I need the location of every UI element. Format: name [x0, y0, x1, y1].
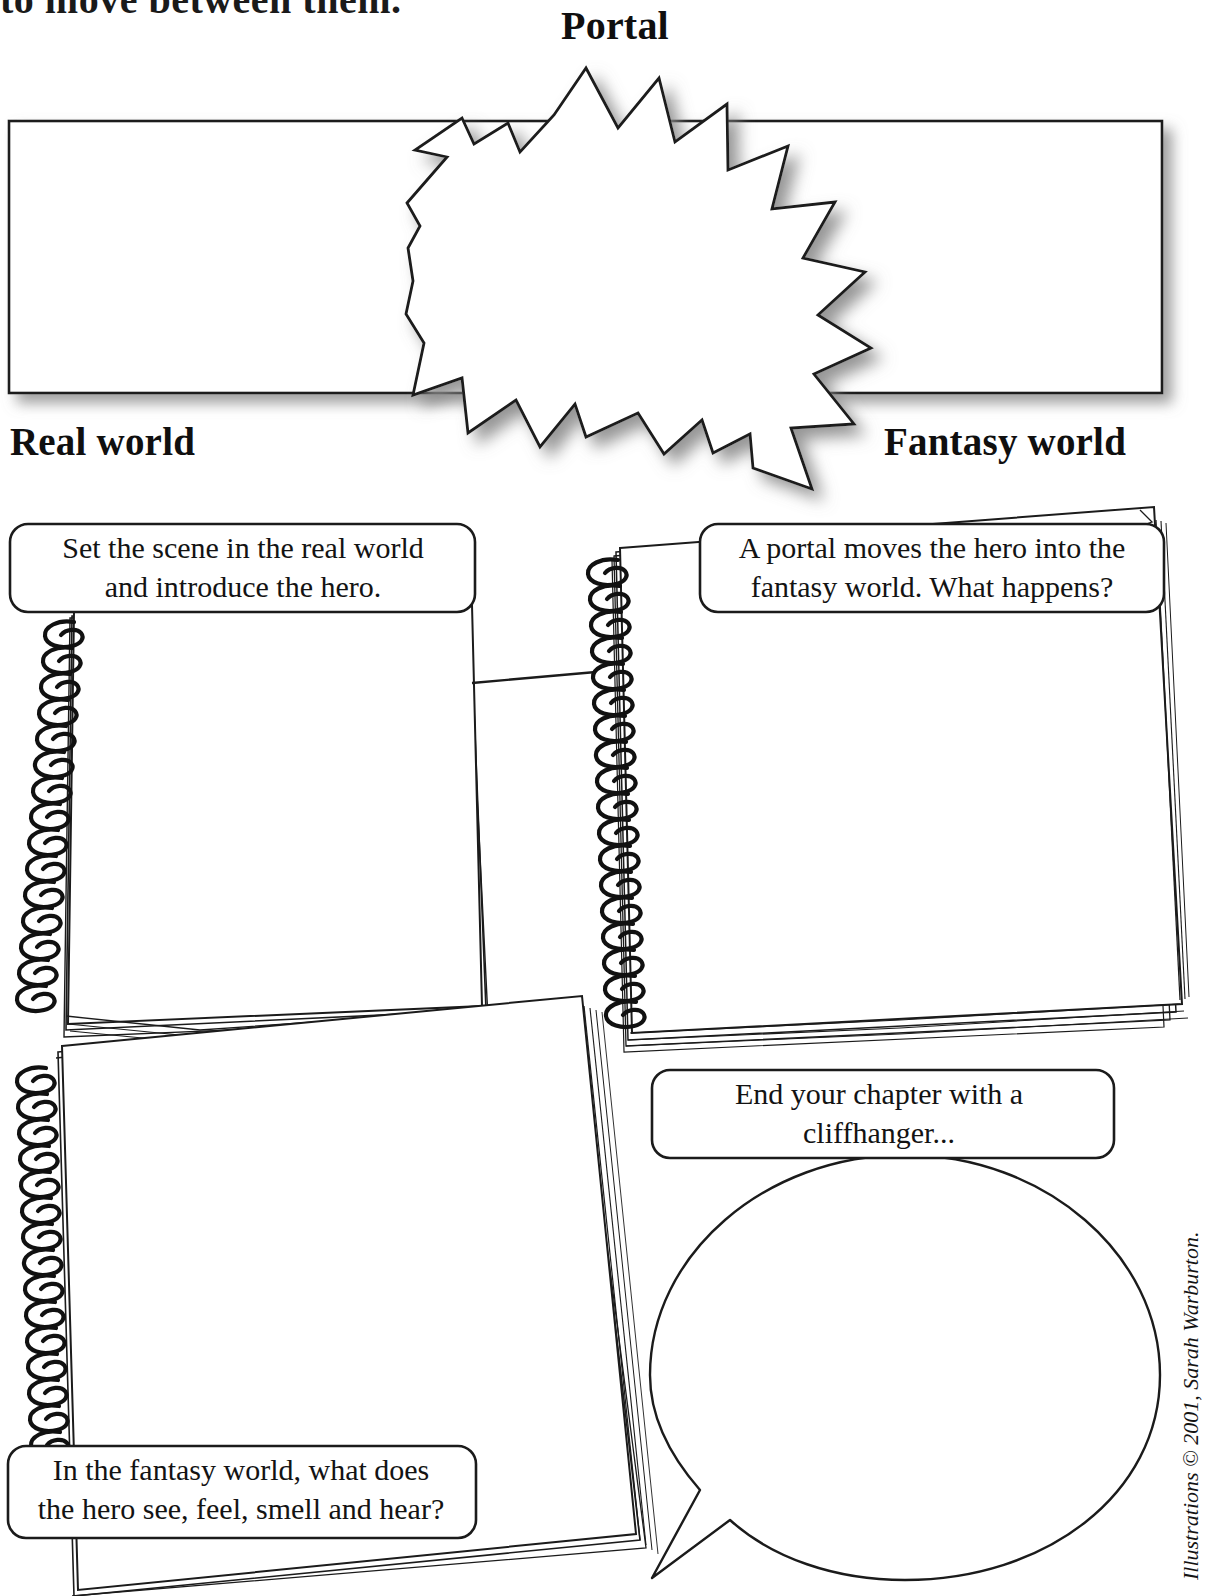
callout-box-end-with-cliffhanger[interactable]	[652, 1070, 1114, 1158]
callout-box-portal-moves-hero[interactable]	[700, 524, 1164, 612]
page-title: Portal	[0, 2, 1230, 49]
callout-box-set-the-scene[interactable]	[10, 524, 475, 612]
notepad-top-left[interactable]	[17, 605, 489, 1045]
real-world-label: Real world	[10, 419, 195, 464]
speech-bubble-writing-area[interactable]	[650, 1155, 1160, 1580]
illustration-credit: Illustrations © 2001, Sarah Warburton.	[1178, 1160, 1204, 1580]
callout-box-senses-in-fantasy-world[interactable]	[8, 1446, 476, 1538]
worksheet-page: to move between them. Portal Real world …	[0, 0, 1230, 1596]
fantasy-world-label: Fantasy world	[884, 419, 1126, 464]
worksheet-artwork	[0, 0, 1230, 1596]
